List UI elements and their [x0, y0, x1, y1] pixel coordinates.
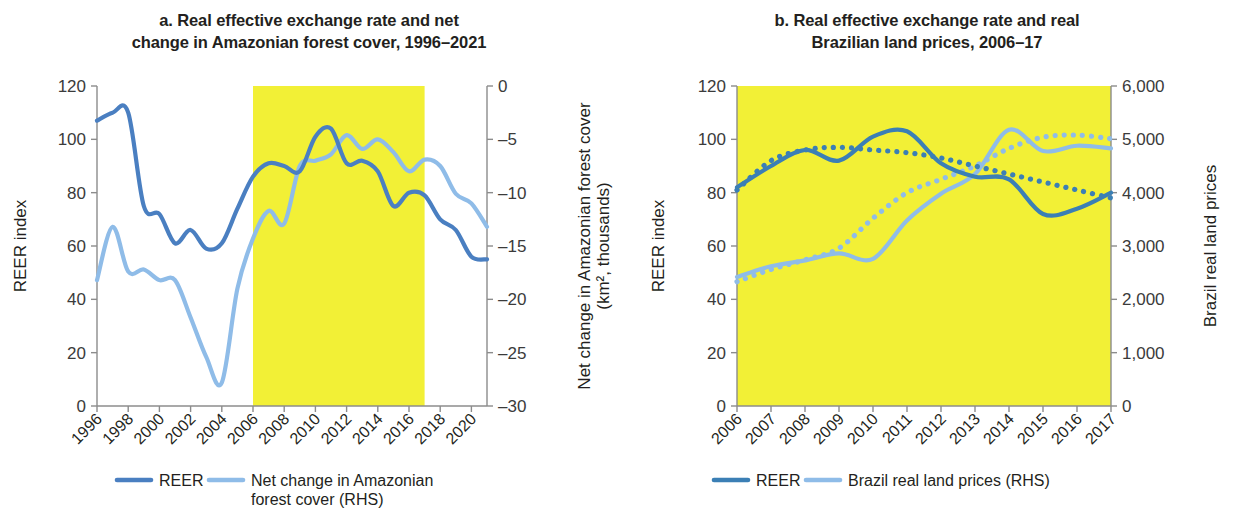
y-axis-tick-label: 60 — [707, 237, 726, 256]
x-axis-tick-label: 2015 — [1014, 410, 1051, 447]
x-axis-tick-label: 2014 — [349, 410, 386, 447]
panel-b: b. Real effective exchange rate and real… — [618, 0, 1236, 513]
y-axis-tick-label: 40 — [67, 290, 86, 309]
x-axis-tick-label: 2010 — [844, 410, 881, 447]
y-axis-tick-label: 20 — [67, 344, 86, 363]
y-axis-tick-label: 0 — [77, 397, 86, 416]
figure-container: a. Real effective exchange rate and net … — [0, 0, 1237, 513]
y2-axis-tick-label: 0 — [1122, 397, 1131, 416]
legend-label: REER — [159, 472, 203, 489]
y2-axis-tick-label: –10 — [498, 184, 526, 203]
y-axis-tick-label: 40 — [707, 290, 726, 309]
highlight-band — [253, 86, 425, 406]
panel-a: a. Real effective exchange rate and net … — [0, 0, 618, 513]
legend-label: Net change in Amazonian — [251, 472, 433, 489]
x-axis-tick-label: 2011 — [879, 410, 915, 446]
y-axis-tick-label: 120 — [698, 77, 726, 96]
x-axis-tick-label: 2007 — [742, 410, 779, 447]
x-axis-tick-label: 2008 — [255, 410, 292, 447]
left-axis-title: REER index — [649, 199, 668, 292]
x-axis-tick-label: 2013 — [946, 410, 983, 447]
y-axis-tick-label: 0 — [717, 397, 726, 416]
x-axis-tick-label: 1998 — [99, 410, 136, 447]
x-axis-tick-label: 2016 — [380, 410, 417, 447]
y2-axis-tick-label: –25 — [498, 344, 526, 363]
y2-axis-tick-label: –5 — [498, 130, 517, 149]
y2-axis-tick-label: 4,000 — [1122, 184, 1165, 203]
right-axis-title: Brazil real land prices — [1201, 165, 1220, 328]
y-axis-tick-label: 120 — [58, 77, 86, 96]
x-axis-tick-label: 1996 — [68, 410, 105, 447]
y2-axis-tick-label: 2,000 — [1122, 290, 1165, 309]
x-axis-tick-label: 2006 — [224, 410, 261, 447]
panel-b-chart: 02040608010012001,0002,0003,0004,0005,00… — [618, 0, 1236, 513]
panel-a-chart: 020406080100120–30–25–20–15–10–501996199… — [0, 0, 618, 513]
y2-axis-tick-label: 0 — [498, 77, 507, 96]
y-axis-tick-label: 80 — [707, 184, 726, 203]
x-axis-tick-label: 2012 — [912, 410, 949, 447]
y-axis-tick-label: 100 — [698, 130, 726, 149]
x-axis-tick-label: 2012 — [318, 410, 355, 447]
x-axis-tick-label: 2009 — [810, 410, 847, 447]
x-axis-tick-label: 2008 — [776, 410, 813, 447]
x-axis-tick-label: 2017 — [1082, 410, 1119, 447]
x-axis-tick-label: 2004 — [193, 410, 230, 447]
x-axis-tick-label: 2016 — [1048, 410, 1085, 447]
y2-axis-tick-label: 3,000 — [1122, 237, 1165, 256]
x-axis-tick-label: 2006 — [708, 410, 745, 447]
legend-label: Brazil real land prices (RHS) — [848, 472, 1050, 489]
y-axis-tick-label: 80 — [67, 184, 86, 203]
y2-axis-tick-label: 1,000 — [1122, 344, 1165, 363]
y-axis-tick-label: 60 — [67, 237, 86, 256]
x-axis-tick-label: 2010 — [286, 410, 323, 447]
y2-axis-tick-label: 5,000 — [1122, 130, 1165, 149]
legend-label-line2: forest cover (RHS) — [251, 491, 383, 508]
right-axis-title: Net change in Amazonian forest cover — [575, 102, 594, 390]
legend-label: REER — [756, 472, 800, 489]
y2-axis-tick-label: –30 — [498, 397, 526, 416]
x-axis-tick-label: 2020 — [442, 410, 479, 447]
y2-axis-tick-label: –15 — [498, 237, 526, 256]
y2-axis-tick-label: –20 — [498, 290, 526, 309]
x-axis-tick-label: 2018 — [411, 410, 448, 447]
y2-axis-tick-label: 6,000 — [1122, 77, 1165, 96]
y-axis-tick-label: 20 — [707, 344, 726, 363]
right-axis-title: (km², thousands) — [594, 182, 613, 310]
x-axis-tick-label: 2002 — [162, 410, 199, 447]
x-axis-tick-label: 2000 — [130, 410, 167, 447]
left-axis-title: REER index — [11, 199, 30, 292]
y-axis-tick-label: 100 — [58, 130, 86, 149]
x-axis-tick-label: 2014 — [980, 410, 1017, 447]
